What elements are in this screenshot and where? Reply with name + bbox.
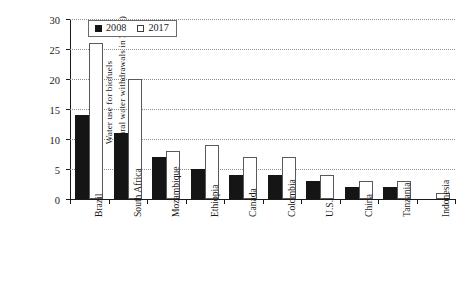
x-axis-label-text: Canada bbox=[247, 188, 258, 217]
plot-area: 051015202530 bbox=[70, 19, 455, 199]
y-axis-tick: 5 bbox=[66, 169, 70, 170]
legend-label-2017: 2017 bbox=[148, 23, 168, 33]
bar-brazil-2017 bbox=[89, 43, 103, 199]
x-axis-tick bbox=[378, 199, 379, 204]
x-axis-label-text: South Africa bbox=[132, 168, 143, 217]
legend-label-2008: 2008 bbox=[106, 23, 126, 33]
x-axis-label-canada: Canada bbox=[247, 188, 258, 217]
x-axis-tick bbox=[70, 199, 71, 204]
bar-brazil-2008 bbox=[75, 115, 89, 199]
y-axis-tick-label: 10 bbox=[50, 135, 61, 146]
x-axis-label-text: Colombia bbox=[286, 179, 297, 217]
bar-mozambique-2008 bbox=[152, 157, 166, 199]
legend-item-2017: 2017 bbox=[137, 23, 168, 33]
x-axis-label-china: China bbox=[363, 194, 374, 217]
x-axis-label-tanzania: Tanzania bbox=[401, 183, 412, 217]
x-axis-label-text: Mozambique bbox=[170, 166, 181, 217]
x-axis-tick bbox=[109, 199, 110, 204]
x-axis-label-indonesia: Indonesia bbox=[440, 180, 451, 217]
legend-swatch-2017-icon bbox=[137, 25, 144, 32]
x-axis-label-text: Tanzania bbox=[401, 183, 412, 217]
bar-tanzania-2008 bbox=[383, 187, 397, 199]
y-axis-tick: 15 bbox=[66, 109, 70, 110]
legend: 2008 2017 bbox=[88, 20, 177, 37]
y-axis-tick: 30 bbox=[66, 19, 70, 20]
x-axis-label-brazil: Brazil bbox=[93, 194, 104, 217]
y-axis-tick-label: 30 bbox=[50, 15, 61, 26]
y-axis-tick: 10 bbox=[66, 139, 70, 140]
x-axis-label-colombia: Colombia bbox=[286, 179, 297, 217]
bar-south-africa-2008 bbox=[114, 133, 128, 199]
x-axis-label-text: U.S. bbox=[324, 200, 335, 217]
legend-item-2008: 2008 bbox=[95, 23, 126, 33]
x-axis-tick bbox=[147, 199, 148, 204]
x-axis-label-south-africa: South Africa bbox=[132, 168, 143, 217]
x-axis-label-u-s-: U.S. bbox=[324, 200, 335, 217]
x-axis-tick bbox=[455, 199, 456, 204]
y-axis-tick-label: 0 bbox=[55, 195, 60, 206]
bar-u-s--2008 bbox=[306, 181, 320, 199]
bar-ethiopia-2008 bbox=[191, 169, 205, 199]
x-axis-tick bbox=[340, 199, 341, 204]
legend-swatch-2008-icon bbox=[95, 25, 102, 32]
bar-colombia-2008 bbox=[268, 175, 282, 199]
x-axis-label-text: Brazil bbox=[93, 194, 104, 217]
x-axis-tick bbox=[301, 199, 302, 204]
bar-u-s--2017 bbox=[320, 175, 334, 199]
y-axis-title: Water use for biofuels (% of agricultura… bbox=[0, 0, 40, 205]
x-axis-label-ethiopia: Ethiopia bbox=[209, 184, 220, 217]
x-axis-label-mozambique: Mozambique bbox=[170, 166, 181, 217]
bar-china-2008 bbox=[345, 187, 359, 199]
y-axis-tick-label: 15 bbox=[50, 105, 61, 116]
bar-chart-figure: Water use for biofuels (% of agricultura… bbox=[0, 0, 475, 284]
x-axis-tick bbox=[224, 199, 225, 204]
y-axis-tick-label: 5 bbox=[55, 165, 60, 176]
y-axis-tick: 20 bbox=[66, 79, 70, 80]
x-axis-label-text: China bbox=[363, 194, 374, 217]
y-axis-tick-label: 25 bbox=[50, 45, 61, 56]
x-axis-tick bbox=[186, 199, 187, 204]
x-axis-tick bbox=[417, 199, 418, 204]
x-axis-label-text: Indonesia bbox=[440, 180, 451, 217]
bar-canada-2008 bbox=[229, 175, 243, 199]
gridline bbox=[70, 49, 455, 50]
y-axis-tick: 25 bbox=[66, 49, 70, 50]
x-axis-label-text: Ethiopia bbox=[209, 184, 220, 217]
x-axis-tick bbox=[263, 199, 264, 204]
y-axis-tick-label: 20 bbox=[50, 75, 61, 86]
